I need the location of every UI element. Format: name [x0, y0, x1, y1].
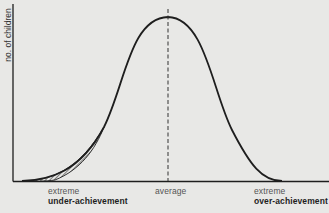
bell-curve-chart — [0, 0, 329, 213]
right-label-line2: over-achievement — [254, 196, 328, 206]
left-label-line2: under-achievement — [48, 196, 128, 206]
shaded-under-achievement-region — [30, 127, 104, 181]
y-axis-label: no. of children — [3, 5, 13, 65]
right-label-line1: extreme — [254, 186, 285, 196]
bell-curve — [22, 17, 282, 181]
left-label-line1: extreme — [48, 186, 79, 196]
center-label: average — [155, 186, 186, 196]
